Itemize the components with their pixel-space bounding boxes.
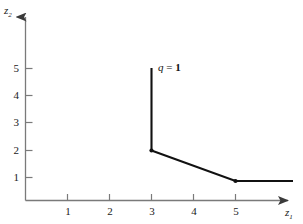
- y-axis-ticks: [26, 69, 33, 178]
- y-tick-label-3: 3: [7, 116, 19, 128]
- x-tick-label-4: 4: [187, 205, 201, 217]
- chart-canvas: [0, 0, 303, 224]
- x-tick-label-3: 3: [145, 205, 159, 217]
- curve-vertex-5-0point8: [233, 179, 237, 183]
- curve-annotation-symbol: q: [158, 61, 164, 73]
- x-axis-ticks: [68, 194, 236, 201]
- y-tick-label-2: 2: [7, 144, 19, 156]
- curve-annotation-value: 1: [175, 61, 181, 73]
- curve-vertex-3-2: [149, 148, 153, 152]
- isoquant-chart: z2 z1 5 4 3 2 1 1 2 3 4 5 q = 1: [0, 0, 303, 224]
- y-tick-label-1: 1: [7, 171, 19, 183]
- curve-annotation-q1: q = 1: [158, 61, 181, 73]
- x-axis-title-subscript: 1: [289, 213, 293, 221]
- isoquant-curve-q1: [152, 68, 294, 181]
- y-axis-title-subscript: 2: [8, 11, 12, 19]
- x-tick-label-5: 5: [229, 205, 243, 217]
- curve-annotation-equals: =: [166, 61, 172, 73]
- x-tick-label-2: 2: [103, 205, 117, 217]
- y-tick-label-5: 5: [7, 62, 19, 74]
- x-tick-label-1: 1: [61, 205, 75, 217]
- x-axis-title: z1: [285, 206, 293, 221]
- y-tick-label-4: 4: [7, 89, 19, 101]
- y-axis-title: z2: [4, 4, 12, 19]
